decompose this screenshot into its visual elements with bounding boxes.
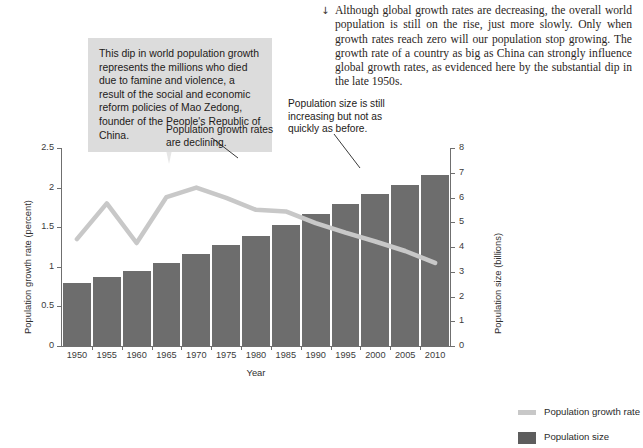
legend-label-growth-rate: Population growth rate: [544, 406, 640, 418]
x-tick: [211, 346, 212, 350]
x-tick-label: 1965: [156, 350, 176, 360]
x-tick-label: 2010: [425, 350, 445, 360]
x-tick-label: 1960: [126, 350, 146, 360]
body-paragraph: ↓ Although global growth rates are decre…: [322, 4, 632, 90]
x-tick-label: 1970: [186, 350, 206, 360]
x-tick: [181, 346, 182, 350]
x-tick: [122, 346, 123, 350]
legend-item-population-size: Population size: [518, 431, 640, 443]
x-tick-label: 1990: [305, 350, 325, 360]
x-tick-label: 2000: [365, 350, 385, 360]
legend-item-growth-rate: Population growth rate: [518, 406, 640, 418]
x-tick-label: 1950: [67, 350, 87, 360]
x-tick: [331, 346, 332, 350]
x-tick: [271, 346, 272, 350]
x-tick: [301, 346, 302, 350]
down-arrow-icon: ↓: [321, 4, 329, 18]
x-tick-label: 2005: [395, 350, 415, 360]
x-tick-label: 1995: [335, 350, 355, 360]
body-paragraph-text: Although global growth rates are decreas…: [335, 4, 632, 90]
x-tick: [420, 346, 421, 350]
x-tick: [390, 346, 391, 350]
y-tick-left: [57, 346, 61, 347]
x-axis-title: Year: [0, 367, 512, 378]
x-tick: [152, 346, 153, 350]
legend-label-population-size: Population size: [544, 431, 640, 443]
chart-legend: Population growth rate Population size: [518, 406, 640, 448]
x-tick: [92, 346, 93, 350]
x-tick-label: 1955: [97, 350, 117, 360]
legend-box-swatch-icon: [518, 432, 536, 444]
annotation-growth-declining: Population growth rates are declining.: [166, 124, 276, 149]
x-axis-line: [61, 346, 451, 347]
y-tick-right: [451, 346, 455, 347]
chart: Population growth rate (percent) Populat…: [0, 138, 643, 374]
annotation-size-increasing: Population size is still increasing but …: [288, 98, 400, 136]
x-tick-label: 1980: [246, 350, 266, 360]
legend-line-swatch-icon: [518, 410, 536, 415]
x-tick: [241, 346, 242, 350]
x-tick-label: 1975: [216, 350, 236, 360]
y-axis-right-title: Population size (billions): [492, 233, 503, 334]
x-tick: [360, 346, 361, 350]
x-tick-label: 1985: [276, 350, 296, 360]
